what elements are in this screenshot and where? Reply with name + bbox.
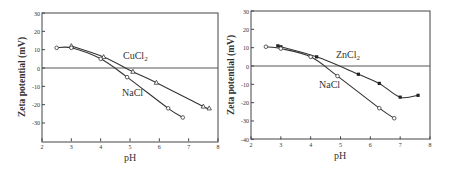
data-point-cucl2 <box>154 80 158 84</box>
x-tick-label: 2 <box>250 142 253 148</box>
y-tick-label: -30 <box>32 120 40 126</box>
left-y-ticks: 3020100-10-20-30 <box>32 11 45 127</box>
x-tick-label: 6 <box>158 144 161 150</box>
left-series-label-cucl2: CuCl2 <box>123 50 148 63</box>
y-tick-label: -10 <box>241 82 249 88</box>
x-tick-label: 4 <box>309 142 312 148</box>
y-tick-label: -40 <box>241 137 249 143</box>
data-point-zncl2 <box>416 94 419 97</box>
y-tick-label: 0 <box>37 66 40 72</box>
data-point-zncl2 <box>399 96 402 99</box>
left-y-axis-label: Zeta potential (mV) <box>17 37 28 117</box>
x-tick-label: 3 <box>279 142 282 148</box>
data-point-zncl2 <box>357 73 360 76</box>
data-point-nacl <box>264 45 268 49</box>
y-tick-label: -30 <box>241 118 249 124</box>
data-point-nacl <box>181 116 185 120</box>
x-tick-label: 8 <box>429 142 432 148</box>
y-tick-label: 10 <box>34 47 40 53</box>
right-x-ticks: 2345678 <box>250 136 432 148</box>
data-point-nacl <box>309 55 313 59</box>
data-point-zncl2 <box>378 82 381 85</box>
data-point-nacl <box>336 74 340 78</box>
right-x-axis-label: pH <box>334 150 346 161</box>
x-tick-label: 5 <box>339 142 342 148</box>
y-tick-label: -20 <box>32 102 40 108</box>
x-tick-label: 6 <box>369 142 372 148</box>
data-point-nacl <box>279 47 283 51</box>
data-point-zncl2 <box>315 55 318 58</box>
right-y-ticks: 3020100-10-20-30-40 <box>241 9 254 143</box>
y-tick-label: 10 <box>243 45 249 51</box>
data-point-nacl <box>125 75 129 79</box>
right-series-label-zncl2: ZnCl2 <box>336 49 361 62</box>
x-tick-label: 5 <box>129 144 132 150</box>
data-point-nacl <box>166 107 170 111</box>
left-series-label-nacl: NaCl <box>122 87 143 98</box>
y-tick-label: 30 <box>34 11 40 17</box>
data-point-nacl <box>55 46 59 50</box>
right-plot-frame <box>251 11 430 139</box>
data-point-nacl <box>70 46 74 50</box>
right-chart: 3020100-10-20-30-40 2345678 ZnCl2 NaCl p… <box>225 0 449 171</box>
x-tick-label: 7 <box>187 144 190 150</box>
data-point-zncl2 <box>276 44 279 47</box>
left-x-axis-label: pH <box>124 152 136 163</box>
data-point-nacl <box>99 57 103 61</box>
left-chart: 3020100-10-20-30 2345678 CuCl2 NaCl pH Z… <box>0 0 225 171</box>
x-tick-label: 8 <box>217 144 220 150</box>
x-tick-label: 2 <box>41 144 44 150</box>
data-point-cucl2 <box>201 104 205 108</box>
y-tick-label: 30 <box>243 9 249 15</box>
y-tick-label: -10 <box>32 84 40 90</box>
left-plot-frame <box>42 13 218 142</box>
y-tick-label: -20 <box>241 100 249 106</box>
y-tick-label: 20 <box>34 29 40 35</box>
right-y-axis-label: Zeta potential (mV) <box>226 35 237 115</box>
x-tick-label: 4 <box>99 144 102 150</box>
series-line-nacl <box>57 47 183 117</box>
data-point-nacl <box>392 116 396 120</box>
left-x-ticks: 2345678 <box>41 138 220 150</box>
x-tick-label: 7 <box>399 142 402 148</box>
y-tick-label: 20 <box>243 27 249 33</box>
right-series-label-nacl: NaCl <box>319 79 340 90</box>
data-point-cucl2 <box>207 106 211 110</box>
data-point-nacl <box>377 106 381 110</box>
y-tick-label: 0 <box>246 64 249 70</box>
x-tick-label: 3 <box>70 144 73 150</box>
data-point-cucl2 <box>131 69 135 73</box>
